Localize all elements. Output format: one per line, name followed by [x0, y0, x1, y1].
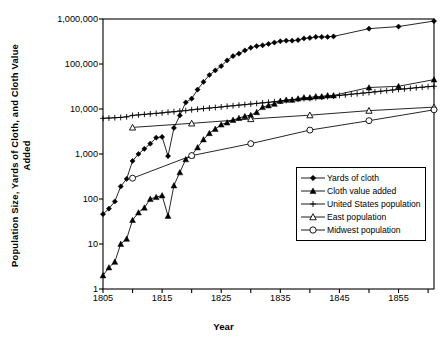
- filled-diamond-marker: [242, 48, 247, 53]
- plus-marker: [141, 111, 147, 117]
- open-circle-marker: [366, 118, 372, 124]
- filled-diamond-marker: [260, 43, 265, 48]
- plus-marker: [307, 96, 313, 102]
- filled-diamond-marker: [319, 34, 324, 39]
- plus-marker: [310, 201, 316, 207]
- plus-marker: [153, 110, 159, 116]
- legend-marker-filled-triangle: [300, 185, 326, 197]
- plus-marker: [266, 99, 272, 105]
- x-axis-tick-label: 1845: [329, 293, 349, 303]
- plus-marker: [248, 101, 254, 107]
- filled-triangle-marker: [112, 259, 118, 264]
- legend-item[interactable]: East population: [300, 211, 421, 224]
- plus-marker: [390, 87, 396, 93]
- legend-item[interactable]: Yards of cloth: [300, 171, 421, 184]
- filled-diamond-marker: [254, 43, 259, 48]
- plus-marker: [136, 112, 142, 118]
- plus-marker: [177, 108, 183, 114]
- plus-marker: [183, 108, 189, 114]
- plus-marker: [124, 114, 130, 120]
- legend-marker-plus: [300, 198, 326, 210]
- legend-label: Cloth value added: [326, 186, 396, 196]
- plus-marker: [242, 102, 248, 108]
- open-circle-marker: [130, 175, 136, 181]
- plus-marker: [413, 85, 419, 91]
- filled-diamond-marker: [290, 38, 295, 43]
- x-axis-tick-label: 1805: [93, 293, 113, 303]
- filled-diamond-marker: [189, 96, 194, 101]
- plus-marker: [366, 90, 372, 96]
- plus-marker: [372, 89, 378, 95]
- open-circle-marker: [307, 127, 313, 133]
- filled-diamond-marker: [295, 37, 300, 42]
- series-united-states-population: [100, 83, 437, 121]
- plus-marker: [165, 109, 171, 115]
- plus-marker: [272, 99, 278, 105]
- plus-marker: [325, 94, 331, 100]
- plus-marker: [159, 110, 165, 116]
- x-axis-tick-label: 1835: [270, 293, 290, 303]
- legend-label: Yards of cloth: [326, 173, 379, 183]
- plus-marker: [360, 90, 366, 96]
- legend-marker-open-triangle: [300, 211, 326, 223]
- filled-diamond-marker: [325, 34, 330, 39]
- legend-label: East population: [326, 212, 386, 222]
- filled-triangle-marker: [431, 77, 437, 82]
- plus-marker: [260, 100, 266, 106]
- plot-frame: [103, 19, 434, 289]
- filled-diamond-marker: [236, 51, 241, 56]
- filled-triangle-marker: [218, 122, 224, 127]
- plus-marker: [236, 102, 242, 108]
- plus-marker: [206, 105, 212, 111]
- filled-diamond-marker: [183, 100, 188, 105]
- plus-marker: [147, 111, 153, 117]
- legend-item[interactable]: Cloth value added: [300, 184, 421, 197]
- legend-item[interactable]: Midwest population: [300, 224, 421, 237]
- filled-diamond-marker: [165, 153, 170, 158]
- filled-diamond-marker: [160, 134, 165, 139]
- legend-label: Midwest population: [326, 225, 401, 235]
- plus-marker: [171, 109, 177, 115]
- x-axis-title: Year: [0, 321, 447, 332]
- legend-label: United States population: [326, 199, 421, 209]
- filled-diamond-marker: [171, 125, 176, 130]
- open-circle-marker: [310, 227, 316, 233]
- open-circle-marker: [189, 153, 195, 159]
- filled-triangle-marker: [206, 130, 212, 135]
- filled-diamond-marker: [307, 35, 312, 40]
- filled-diamond-marker: [313, 34, 318, 39]
- plus-marker: [189, 107, 195, 113]
- plus-marker: [313, 95, 319, 101]
- filled-diamond-marker: [278, 39, 283, 44]
- plus-marker: [218, 104, 224, 110]
- filled-triangle-marker: [141, 205, 147, 210]
- plus-marker: [301, 96, 307, 102]
- filled-diamond-marker: [331, 34, 336, 39]
- plus-marker: [106, 115, 112, 121]
- plus-marker: [378, 88, 384, 94]
- plus-marker: [407, 85, 413, 91]
- plus-marker: [100, 115, 106, 121]
- filled-diamond-marker: [272, 40, 277, 45]
- x-axis-tick-label: 1855: [388, 293, 408, 303]
- legend-item[interactable]: United States population: [300, 197, 421, 210]
- plus-marker: [319, 94, 325, 100]
- plus-marker: [354, 91, 360, 97]
- filled-diamond-marker: [301, 36, 306, 41]
- plus-marker: [195, 106, 201, 112]
- legend-marker-filled-diamond: [300, 172, 326, 184]
- chart-container: Population Size, Yards of Cloth, and Clo…: [0, 0, 447, 343]
- open-circle-marker: [248, 141, 254, 147]
- legend-marker-open-circle: [300, 224, 326, 236]
- plus-marker: [419, 84, 425, 90]
- filled-diamond-marker: [266, 41, 271, 46]
- plus-marker: [212, 105, 218, 111]
- legend: Yards of clothCloth value addedUnited St…: [296, 167, 426, 241]
- plus-marker: [402, 86, 408, 92]
- filled-triangle-marker: [171, 183, 177, 188]
- filled-triangle-marker: [212, 126, 218, 131]
- open-circle-marker: [431, 107, 437, 113]
- filled-diamond-marker: [310, 175, 315, 180]
- plus-marker: [254, 101, 260, 107]
- x-axis-tick-labels: 180518151825183518451855: [0, 293, 447, 309]
